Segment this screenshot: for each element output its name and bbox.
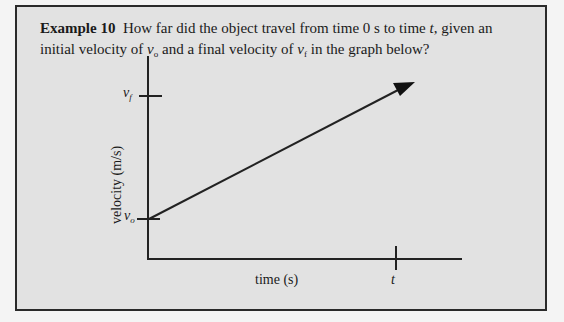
velocity-line <box>149 89 400 219</box>
y-axis-label: velocity (m/s) <box>109 146 125 224</box>
t-tick-label: t <box>391 272 395 288</box>
arrowhead-icon <box>393 82 415 96</box>
vo-label: vo <box>124 208 135 225</box>
vf-label: vf <box>123 85 132 102</box>
x-axis-label: time (s) <box>255 272 298 288</box>
